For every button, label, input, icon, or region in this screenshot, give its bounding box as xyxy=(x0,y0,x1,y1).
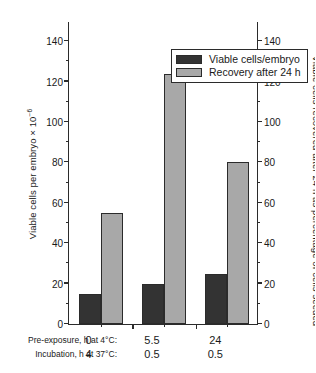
y-axis-left-tick-label-120: 120 xyxy=(23,78,63,88)
bar-recovery-group-3 xyxy=(227,162,249,324)
y-axis-right-minor-tick-110 xyxy=(257,101,260,102)
y-axis-right-tick-0 xyxy=(257,323,262,324)
y-axis-right-tick-label-80: 80 xyxy=(264,158,304,168)
y-axis-left-tick-label-20: 20 xyxy=(23,280,63,290)
group-value-r1-c1: 0 xyxy=(71,333,107,347)
y-axis-right-title: Viable cells recovered after 24 h as per… xyxy=(311,56,316,300)
group-value-r2-c1: 4 xyxy=(71,347,107,361)
y-axis-left-tick-label-100: 100 xyxy=(23,118,63,128)
y-axis-right-tick-label-40: 40 xyxy=(264,239,304,249)
y-axis-right-tick-label-0: 0 xyxy=(264,320,304,330)
group-row-incubation: Incubation, h at 37°C: 40.50.5 xyxy=(0,347,315,361)
y-axis-right-tick-100 xyxy=(257,121,262,122)
bar-recovery-group-1 xyxy=(101,213,123,324)
legend-item-recovery: Recovery after 24 h xyxy=(176,66,301,79)
y-axis-left-tick-20 xyxy=(64,282,69,283)
y-axis-left-tick-label-80: 80 xyxy=(23,158,63,168)
y-axis-right-tick-20 xyxy=(257,282,262,283)
legend-label-viable-cells: Viable cells/embryo xyxy=(209,54,300,65)
group-value-r2-c3: 0.5 xyxy=(197,347,233,361)
group-value-r1-c3: 24 xyxy=(197,333,233,347)
y-axis-left-tick-label-140: 140 xyxy=(23,37,63,47)
x-axis-major-tick-1 xyxy=(132,324,133,329)
x-axis-minor-tick-3 xyxy=(227,324,228,327)
y-axis-left-tick-100 xyxy=(64,121,69,122)
bar-viable-cells-group-1 xyxy=(79,294,101,324)
group-label-table: Pre-exposure, h at 4°C: 05.524 Incubatio… xyxy=(0,333,315,361)
y-axis-left-tick-label-0: 0 xyxy=(23,320,63,330)
y-axis-right-tick-label-100: 100 xyxy=(264,118,304,128)
y-axis-left-minor-tick-50 xyxy=(66,222,69,223)
y-axis-left-tick-40 xyxy=(64,242,69,243)
y-axis-left-minor-tick-110 xyxy=(66,101,69,102)
y-axis-left-tick-140 xyxy=(64,40,69,41)
y-axis-right-minor-tick-90 xyxy=(257,141,260,142)
y-axis-left-minor-tick-30 xyxy=(66,262,69,263)
x-axis-major-tick-2 xyxy=(196,324,197,329)
chart-figure: Viable cells per embryo × 10−6 Viable ce… xyxy=(0,0,315,373)
y-axis-right-tick-label-60: 60 xyxy=(264,199,304,209)
y-axis-left-minor-tick-70 xyxy=(66,182,69,183)
y-axis-right-minor-tick-10 xyxy=(257,303,260,304)
y-axis-left-tick-120 xyxy=(64,80,69,81)
group-value-r1-c2: 5.5 xyxy=(134,333,170,347)
y-axis-right-minor-tick-30 xyxy=(257,262,260,263)
x-axis-minor-tick-2 xyxy=(164,324,165,327)
y-axis-left-tick-60 xyxy=(64,202,69,203)
y-axis-left-minor-tick-130 xyxy=(66,60,69,61)
legend-item-viable-cells: Viable cells/embryo xyxy=(176,53,301,66)
x-axis-minor-tick-1 xyxy=(101,324,102,327)
y-axis-right-tick-label-20: 20 xyxy=(264,280,304,290)
legend-label-recovery: Recovery after 24 h xyxy=(209,67,301,78)
y-axis-right-tick-40 xyxy=(257,242,262,243)
y-axis-left-title-exponent: −6 xyxy=(26,109,33,117)
y-axis-left-tick-label-40: 40 xyxy=(23,239,63,249)
legend-swatch-dark xyxy=(176,55,202,64)
y-axis-left-title: Viable cells per embryo × 10−6 xyxy=(26,64,38,284)
y-axis-left-tick-0 xyxy=(64,323,69,324)
bar-viable-cells-group-3 xyxy=(205,274,227,325)
y-axis-right-minor-tick-70 xyxy=(257,182,260,183)
y-axis-left-minor-tick-90 xyxy=(66,141,69,142)
legend: Viable cells/embryo Recovery after 24 h xyxy=(171,49,308,83)
bar-viable-cells-group-2 xyxy=(142,284,164,324)
y-axis-left-minor-tick-10 xyxy=(66,303,69,304)
y-axis-right-tick-60 xyxy=(257,202,262,203)
y-axis-right-minor-tick-50 xyxy=(257,222,260,223)
y-axis-right-tick-label-140: 140 xyxy=(264,37,304,47)
y-axis-left-tick-80 xyxy=(64,161,69,162)
group-value-r2-c2: 0.5 xyxy=(134,347,170,361)
group-row-pre-exposure: Pre-exposure, h at 4°C: 05.524 xyxy=(0,333,315,347)
y-axis-right-tick-140 xyxy=(257,40,262,41)
y-axis-left-title-text: Viable cells per embryo × 10 xyxy=(27,117,38,240)
bar-recovery-group-2 xyxy=(164,74,186,324)
y-axis-right-tick-80 xyxy=(257,161,262,162)
y-axis-left-tick-label-60: 60 xyxy=(23,199,63,209)
legend-swatch-light xyxy=(176,68,202,77)
plot-area: Viable cells/embryo Recovery after 24 h xyxy=(68,22,258,325)
